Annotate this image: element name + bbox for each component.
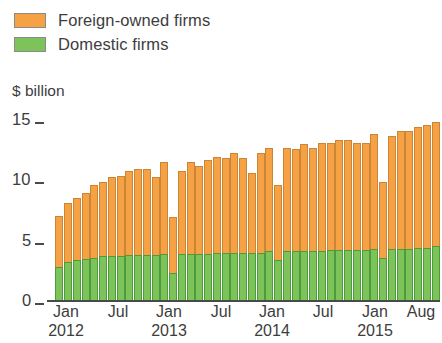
bar-segment-foreign-owned-firms (195, 166, 203, 254)
bar-column (405, 108, 414, 300)
bar-column (361, 108, 370, 300)
x-tick-month: Jan (156, 303, 182, 320)
x-tick-jul-2012: Jul (108, 303, 128, 321)
y-tick-label-5: 5 (22, 231, 31, 250)
bar-segment-domestic-firms (73, 260, 81, 300)
x-tick-jan-2012: Jan 2012 (48, 303, 84, 340)
bar-segment-foreign-owned-firms (108, 177, 116, 256)
bar-segment-domestic-firms (300, 251, 308, 300)
x-tick-jan-2013: Jan 2013 (151, 303, 187, 340)
bar-segment-domestic-firms (265, 251, 273, 300)
bar-segment-domestic-firms (370, 249, 378, 300)
bar-segment-domestic-firms (353, 250, 361, 300)
bar-segment-foreign-owned-firms (152, 177, 160, 255)
bar-column (318, 108, 327, 300)
bar-segment-domestic-firms (108, 256, 116, 300)
bar-segment-foreign-owned-firms (292, 149, 300, 251)
bar-segment-domestic-firms (318, 251, 326, 300)
bar-segment-domestic-firms (239, 253, 247, 300)
bar-segment-foreign-owned-firms (265, 148, 273, 252)
bar-segment-domestic-firms (169, 273, 177, 300)
bar-column (431, 108, 440, 300)
bar-segment-domestic-firms (248, 253, 256, 300)
bar-segment-foreign-owned-firms (55, 216, 63, 267)
x-tick-month: Aug (407, 303, 435, 320)
bar-column (353, 108, 362, 300)
x-tick-jul-2013: Jul (211, 303, 231, 321)
bar-segment-domestic-firms (274, 260, 282, 300)
bar-segment-foreign-owned-firms (125, 171, 133, 255)
bar-column (134, 108, 143, 300)
bar-segment-foreign-owned-firms (239, 158, 247, 253)
bar-segment-foreign-owned-firms (353, 143, 361, 251)
y-tick-label-15: 15 (12, 110, 30, 129)
bar-segment-domestic-firms (134, 255, 142, 300)
x-tick-month: Jul (108, 303, 128, 320)
y-tick-mark-5 (35, 243, 44, 245)
bar-segment-domestic-firms (213, 253, 221, 300)
plot-area (55, 108, 440, 300)
bar-segment-domestic-firms (99, 256, 107, 300)
bar-segment-domestic-firms (283, 251, 291, 300)
x-tick-jul-2014: Jul (313, 303, 333, 321)
y-tick-label-0: 0 (22, 291, 31, 310)
bar-segment-domestic-firms (397, 249, 405, 300)
bar-segment-foreign-owned-firms (388, 136, 396, 249)
bar-segment-domestic-firms (125, 255, 133, 300)
bar-column (300, 108, 309, 300)
bar-segment-foreign-owned-firms (187, 162, 195, 254)
bar-column (64, 108, 73, 300)
bar-column (108, 108, 117, 300)
bar-segment-foreign-owned-firms (134, 169, 142, 255)
bar-column (73, 108, 82, 300)
bar-column (143, 108, 152, 300)
bar-segment-foreign-owned-firms (344, 140, 352, 250)
bar-column (186, 108, 195, 300)
bar-segment-domestic-firms (222, 253, 230, 300)
bar-segment-foreign-owned-firms (300, 144, 308, 252)
bar-segment-domestic-firms (292, 251, 300, 300)
x-tick-month: Jan (53, 303, 79, 320)
bar-segment-domestic-firms (230, 253, 238, 300)
bar-segment-foreign-owned-firms (370, 134, 378, 249)
bar-column (248, 108, 257, 300)
bar-column (414, 108, 423, 300)
x-tick-aug-2015: Aug (407, 303, 435, 321)
bar-column (256, 108, 265, 300)
y-tick-label-10: 10 (12, 170, 30, 189)
bar-segment-domestic-firms (204, 254, 212, 300)
bar-segment-domestic-firms (195, 254, 203, 300)
bar-segment-foreign-owned-firms (318, 143, 326, 252)
bar-segment-domestic-firms (143, 255, 151, 300)
bar-column (309, 108, 318, 300)
bar-segment-foreign-owned-firms (230, 153, 238, 253)
bar-segment-foreign-owned-firms (64, 203, 72, 262)
bar-segment-foreign-owned-firms (274, 185, 282, 261)
bar-segment-domestic-firms (117, 256, 125, 300)
x-tick-month: Jan (362, 303, 388, 320)
bar-segment-foreign-owned-firms (379, 182, 387, 258)
chart-figure: Foreign-owned firms Domestic firms $ bil… (0, 0, 442, 343)
bar-segment-domestic-firms (327, 250, 335, 300)
x-axis-baseline (47, 300, 440, 303)
bar-segment-foreign-owned-firms (335, 140, 343, 250)
bar-segment-foreign-owned-firms (204, 160, 212, 253)
bar-segment-domestic-firms (82, 259, 90, 300)
bar-segment-domestic-firms (414, 248, 422, 300)
bar-column (326, 108, 335, 300)
bar-segment-domestic-firms (152, 255, 160, 300)
bar-segment-domestic-firms (160, 254, 168, 300)
bar-column (99, 108, 108, 300)
bar-column (81, 108, 90, 300)
bar-column (125, 108, 134, 300)
bar-segment-foreign-owned-firms (222, 158, 230, 253)
bar-segment-domestic-firms (388, 249, 396, 300)
bar-segment-foreign-owned-firms (117, 176, 125, 257)
bar-segment-domestic-firms (178, 254, 186, 300)
bar-segment-domestic-firms (405, 249, 413, 300)
bar-column (265, 108, 274, 300)
bar-segment-domestic-firms (362, 250, 370, 300)
bar-segment-foreign-owned-firms (143, 169, 151, 255)
x-tick-year: 2013 (151, 322, 187, 340)
x-tick-year: 2014 (254, 322, 290, 340)
